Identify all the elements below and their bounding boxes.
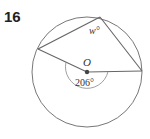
inscribed-angle-label: w° — [89, 25, 100, 36]
radius-left — [38, 49, 87, 72]
center-point — [85, 70, 89, 74]
center-label: O — [83, 56, 91, 68]
chord-top-right — [100, 17, 142, 71]
circle-diagram: O 206° w° — [0, 0, 150, 139]
central-angle-label: 206° — [75, 77, 94, 88]
radius-right — [87, 71, 142, 72]
